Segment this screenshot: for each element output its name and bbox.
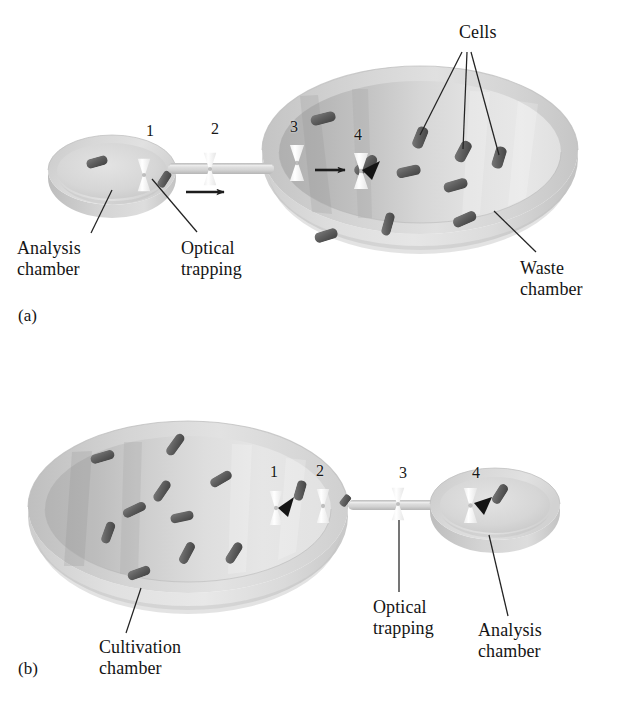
figure-canvas: [0, 0, 617, 721]
connecting-channel-b: [348, 500, 438, 510]
trap-number-b-4: 4: [472, 464, 480, 482]
waste-chamber-bowl: [262, 66, 578, 254]
figure-optical-trapping-chambers: Cells Analysis chamber Optical trapping …: [0, 0, 617, 721]
trap-number-b-1: 1: [270, 463, 278, 481]
panel-tag-b: (b): [18, 659, 38, 679]
trap-number-a-4: 4: [354, 126, 362, 144]
optical-trapping-label-a: Optical trapping: [181, 238, 242, 279]
trap-number-a-3: 3: [290, 118, 298, 136]
analysis-chamber-dish-b: [430, 468, 560, 553]
connecting-channel-a: [168, 163, 274, 174]
analysis-chamber-label-b: Analysis chamber: [478, 620, 542, 661]
analysis-dish-interior-b: [440, 477, 550, 533]
trap-number-a-1: 1: [146, 122, 154, 140]
waste-chamber-label: Waste chamber: [520, 258, 583, 299]
analysis-chamber-dish-a: [48, 135, 176, 218]
optical-trapping-label-b: Optical trapping: [373, 597, 434, 638]
panel-tag-a: (a): [18, 306, 37, 326]
panel-a-graphic: [48, 52, 578, 254]
trap-number-b-2: 2: [316, 462, 324, 480]
cultivation-chamber-label: Cultivation chamber: [99, 637, 181, 678]
analysis-chamber-label-a: Analysis chamber: [17, 238, 81, 279]
panel-b-graphic: [28, 421, 560, 633]
cells-label: Cells: [459, 22, 497, 43]
trap-number-a-2: 2: [211, 120, 219, 138]
trap-number-b-3: 3: [399, 464, 407, 482]
